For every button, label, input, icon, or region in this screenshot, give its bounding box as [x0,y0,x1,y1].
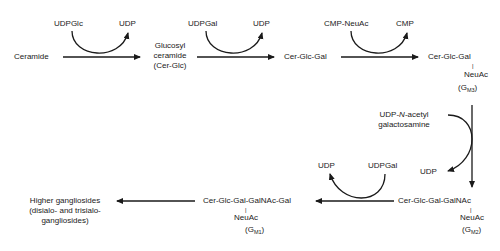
higher-line1: Higher gangliosides [18,196,112,206]
node-glucosyl-ceramide: Glucosyl ceramide (Cer-Glc) [148,41,192,71]
cofactor-udp-4: UDP [420,167,437,177]
gm3-branch: NeuAc [464,70,488,80]
cofactor-udpglc: UDPGlc [54,19,83,29]
udp-galnac-line2: galactosamine [374,120,434,130]
gm2-branch: NeuAc [460,213,484,223]
gm1-branch: NeuAc [234,213,258,223]
gm1-label-sub: M1 [254,229,262,235]
gm3-label-sub: M3 [467,87,475,93]
udp-galnac-line1: UDP-N-acetyl [374,110,434,120]
udp-galnac-pre: UDP- [380,110,400,119]
glccer-line1: Glucosyl [148,41,192,51]
cofactor-udpgal-2: UDPGal [368,161,397,171]
curve-cmpneuac-to-cmp [351,31,407,53]
curve-udpgal-to-udp-2 [330,174,385,198]
cofactor-udp-5: UDP [318,161,335,171]
higher-line2: (disialo- and trisialo- [18,206,112,216]
gm1-chain: Cer-Glc-Gal-GalNAc-Gal [203,196,291,206]
gm2-label-sub: M2 [471,229,479,235]
cofactor-udp-1: UDP [119,19,136,29]
node-gm2: Cer-Glc-Gal-GalNAc | NeuAc (GM2) [398,196,498,246]
gm1-label: (GM1) [245,225,264,237]
udp-galnac-post: -acetyl [405,110,429,119]
glccer-line2: ceramide [148,51,192,61]
gm2-label-open: (G [462,225,471,234]
gm3-label-close: ) [475,83,478,92]
gm2-label: (GM2) [462,225,481,237]
node-higher-gangliosides: Higher gangliosides (disialo- and trisia… [18,196,112,226]
gm2-label-close: ) [479,225,482,234]
cofactor-cmp-neuac: CMP-NeuAc [324,19,368,29]
glccer-line3: (Cer-Glc) [148,61,192,71]
cofactor-udpgal-1: UDPGal [188,19,217,29]
node-ceramide: Ceramide [14,52,49,62]
node-gm1: Cer-Glc-Gal-GalNAc-Gal | NeuAc (GM1) [203,196,313,246]
curve-udpgal-to-udp [206,31,262,53]
curve-udpglc-to-udp [72,31,128,53]
gm3-label: (GM3) [458,83,477,95]
node-cer-glc-gal: Cer-Glc-Gal [284,52,327,62]
cofactor-cmp: CMP [396,19,414,29]
gm1-label-close: ) [262,225,265,234]
gm3-label-open: (G [458,83,467,92]
cofactor-udp-galnac: UDP-N-acetyl galactosamine [374,110,434,130]
gm3-chain: Cer-Glc-Gal [428,52,471,62]
curve-udpgalnac-to-udp [448,115,472,171]
gm1-label-open: (G [245,225,254,234]
higher-line3: gangliosides) [18,216,112,226]
cofactor-udp-2: UDP [253,19,270,29]
gm2-chain: Cer-Glc-Gal-GalNAc [398,196,471,206]
